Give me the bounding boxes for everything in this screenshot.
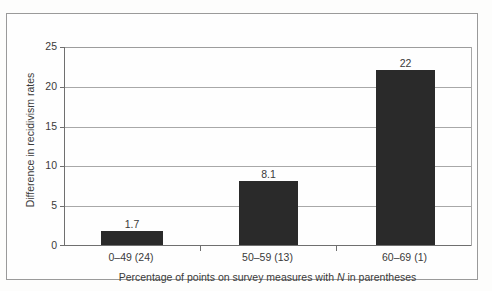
bar-60-69[interactable] — [376, 70, 435, 245]
figure-canvas: Difference in recidivism rates 25 20 15 … — [0, 0, 492, 291]
bar-value-label-0-49: 1.7 — [101, 218, 163, 230]
bar-0-49[interactable] — [101, 231, 163, 245]
x-axis-title-prefix: Percentage of points on survey measures … — [119, 271, 337, 283]
y-tick-label-10: 10 — [35, 160, 57, 171]
x-axis-title: Percentage of points on survey measures … — [64, 271, 471, 283]
y-tick-mark-5 — [60, 206, 65, 207]
x-axis-title-italic-n: N — [337, 271, 345, 283]
y-tick-label-15: 15 — [35, 121, 57, 132]
y-tick-label-5: 5 — [35, 200, 57, 211]
x-axis-title-suffix: in parentheses — [345, 271, 417, 283]
bar-value-label-50-59: 8.1 — [239, 168, 298, 180]
y-axis-tick-labels: 25 20 15 10 5 0 — [33, 47, 57, 246]
y-tick-label-20: 20 — [35, 81, 57, 92]
y-tick-mark-20 — [60, 87, 65, 88]
x-tick-mark-1 — [200, 246, 201, 251]
plot-area: 1.7 8.1 22 — [64, 47, 471, 246]
y-tick-mark-25 — [60, 47, 65, 48]
bar-value-label-60-69: 22 — [376, 57, 435, 69]
y-tick-label-25: 25 — [35, 41, 57, 52]
gridline-25 — [65, 47, 472, 48]
x-category-label-0-49: 0–49 (24) — [100, 251, 162, 263]
plot-right-border — [471, 47, 472, 246]
bar-50-59[interactable] — [239, 181, 298, 245]
y-tick-mark-15 — [60, 127, 65, 128]
chart-outer-frame: Difference in recidivism rates 25 20 15 … — [6, 13, 478, 280]
y-tick-mark-0 — [60, 245, 65, 246]
x-tick-mark-2 — [336, 246, 337, 251]
y-tick-mark-10 — [60, 166, 65, 167]
x-category-label-60-69: 60–69 (1) — [375, 251, 434, 263]
x-category-label-50-59: 50–59 (13) — [238, 251, 297, 263]
y-tick-label-0: 0 — [35, 240, 57, 251]
